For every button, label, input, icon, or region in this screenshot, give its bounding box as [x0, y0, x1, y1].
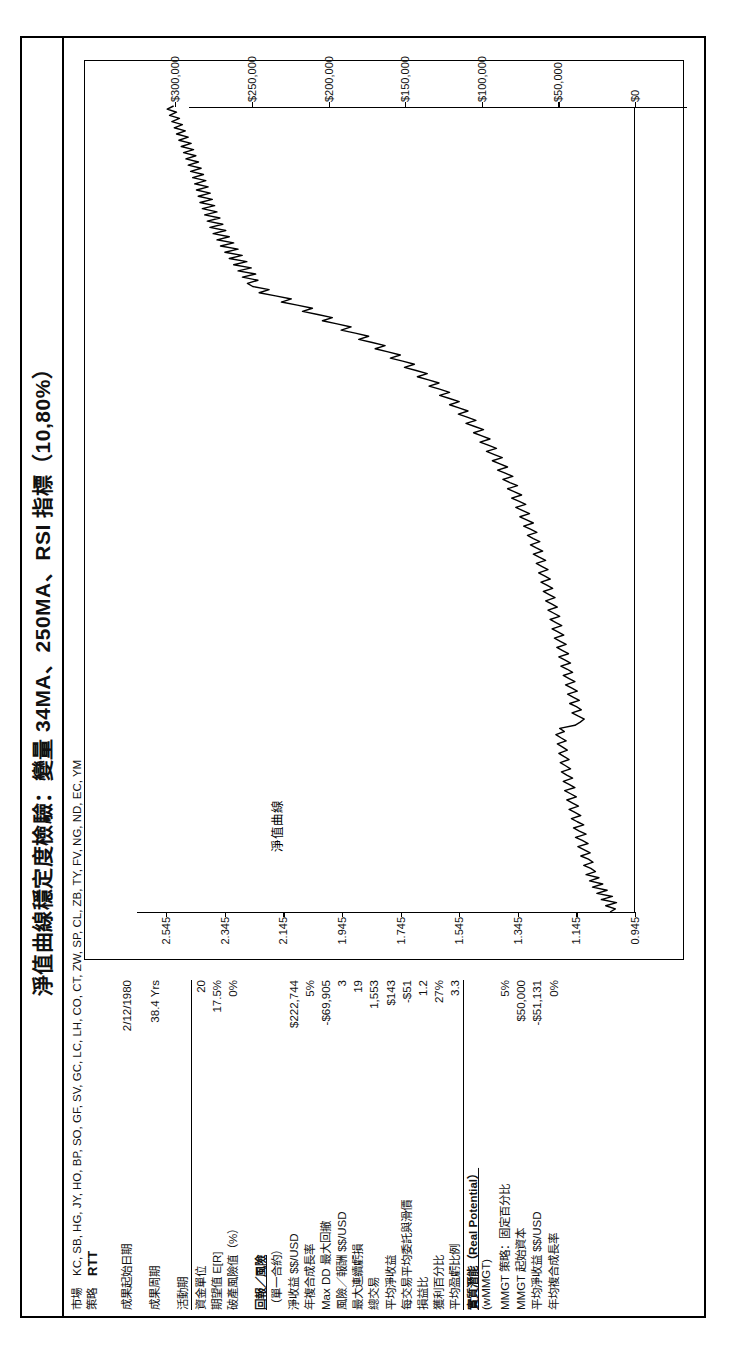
stats-row: (wMMGT): [480, 980, 496, 1310]
stats-row-label: MMGT 起始資本: [512, 1022, 528, 1310]
stats-row-value: 3.3: [449, 980, 461, 996]
stats-row-value: 2/12/1980: [121, 980, 133, 1031]
stats-row: 每交易平均委託與滑價-$51: [398, 980, 414, 1310]
stats-row-value: $143: [385, 980, 397, 1006]
stats-row-label: Max DD 最大回撤: [317, 1025, 333, 1310]
stats-row: 期望值 E[R]17.5%: [208, 980, 224, 1310]
stats-row-label: 年均複合成長率: [545, 997, 561, 1310]
stats-row: 活動期: [174, 980, 191, 1310]
stats-row-value: 5%: [304, 980, 316, 997]
y-axis-right-tick-mark: [482, 102, 483, 107]
stats-row-value: 1,553: [368, 980, 380, 1009]
y-axis-right-tick-label: $150,000: [399, 56, 411, 102]
y-axis-left-tick-mark: [342, 912, 343, 917]
y-axis-right-tick-mark: [405, 102, 406, 107]
stats-row: Max DD 最大回撤-$69,905: [317, 980, 333, 1310]
stats-row: 平均盈虧比例3.3: [446, 980, 463, 1310]
stats-row: 成果周期38.4 Yrs: [146, 980, 162, 1310]
y-axis-right-tick-mark: [252, 102, 253, 107]
market-label: 市場: [70, 1276, 85, 1310]
stats-spacer: [162, 980, 174, 1310]
y-axis-left-tick-label: 2.545: [160, 917, 172, 945]
stats-row: MMGT 起始資本$50,000: [512, 980, 528, 1310]
market-value: KC, SB, HG, JY, HO, BP, SO, GF, SV, GC, …: [70, 610, 85, 1276]
y-axis-right-tick-mark: [329, 102, 330, 107]
stats-row-value: $50,000: [515, 980, 527, 1022]
stats-row-label: 成果周期: [146, 1023, 162, 1310]
y-axis-left-tick-label: 2.145: [277, 917, 289, 945]
y-axis-right-tick-label: $0: [629, 90, 641, 102]
market-row: 市場 KC, SB, HG, JY, HO, BP, SO, GF, SV, G…: [70, 610, 85, 1310]
stats-row: 最大連續虧損19: [349, 980, 365, 1310]
rotated-page-stage: 淨值曲線穩定度檢驗：變量 34MA、250MA、RSI 指標（10,80%） 市…: [0, 0, 729, 1352]
stats-row: 損益比1.2: [414, 980, 430, 1310]
stats-spacer: [240, 980, 252, 1310]
y-axis-left-tick-mark: [576, 912, 577, 917]
strategy-label: 策略: [85, 1276, 100, 1310]
y-axis-right-tick-mark: [635, 102, 636, 107]
stats-row-value: -$51: [401, 980, 413, 1003]
stats-row: MMGT 策略：固定百分比5%: [496, 980, 512, 1310]
y-axis-right-tick-label: $200,000: [323, 56, 335, 102]
stats-row: 總交易1,553: [365, 980, 381, 1310]
stats-row-label: 淨收益 $$/USD: [285, 1028, 301, 1310]
stats-row-label: 最大連續虧損: [349, 993, 365, 1310]
stats-row-value: 3: [336, 980, 348, 986]
stats-row-value: 38.4 Yrs: [149, 980, 161, 1023]
stats-row: 成果起始日期2/12/1980: [118, 980, 134, 1310]
stats-row-label: (wMMGT): [480, 980, 492, 1310]
stats-row: 年複合成長率5%: [301, 980, 317, 1310]
report-page: 淨值曲線穩定度檢驗：變量 34MA、250MA、RSI 指標（10,80%） 市…: [0, 0, 729, 1352]
stats-row: （單一合約）: [268, 980, 284, 1310]
stats-row-label: MMGT 策略：固定百分比: [496, 997, 512, 1310]
stats-row-label: 每交易平均委託與滑價: [398, 1003, 414, 1310]
title-band: 淨值曲線穩定度檢驗：變量 34MA、250MA、RSI 指標（10,80%）: [20, 36, 64, 1318]
stats-row-value: $222,744: [288, 980, 300, 1028]
stats-row: 實質潛能（Real Potential）: [464, 980, 480, 1310]
stats-row-label: 活動期: [174, 980, 190, 1310]
stats-row: 獲利百分比27%: [430, 980, 446, 1310]
stats-row-label: 平均淨收益: [382, 1006, 398, 1310]
y-axis-right-tick-label: $300,000: [169, 56, 181, 102]
y-axis-left-tick-mark: [283, 912, 284, 917]
y-axis-left-tick-label: 2.345: [219, 917, 231, 945]
statistics-table: 成果起始日期2/12/1980成果周期38.4 Yrs活動期資金單位20期望值 …: [118, 980, 561, 1310]
stats-row-label: （單一合約）: [268, 980, 284, 1310]
stats-row-label: 成果起始日期: [118, 1031, 134, 1310]
stats-spacer: [134, 980, 146, 1310]
stats-row-value: 5%: [499, 980, 511, 997]
y-axis-right-tick-mark: [175, 102, 176, 107]
stats-row-value: -$69,905: [320, 980, 332, 1025]
stats-row-label: 風險／報酬 $$/USD: [333, 986, 349, 1310]
stats-row-label: 破產風險值（%）: [224, 997, 240, 1310]
y-axis-left-tick-label: 0.945: [629, 917, 641, 945]
plot-area: 淨值曲線 0.9451.1451.3451.5451.7451.9452.145…: [137, 107, 635, 913]
y-axis-left-tick-mark: [166, 912, 167, 917]
stats-row: 淨收益 $$/USD$222,744: [285, 980, 301, 1310]
stats-row-value: 20: [195, 980, 207, 993]
stats-row: 年均複合成長率0%: [545, 980, 561, 1310]
stats-row-label: 實質潛能（Real Potential）: [464, 980, 480, 1310]
stats-row-label: 年複合成長率: [301, 997, 317, 1310]
stats-row-value: 1.2: [417, 980, 429, 996]
page-title: 淨值曲線穩定度檢驗：變量 34MA、250MA、RSI 指標（10,80%）: [26, 358, 56, 997]
y-axis-right-tick-mark: [558, 102, 559, 107]
stats-row-value: 19: [352, 980, 364, 993]
stats-row-value: -$51,131: [531, 980, 543, 1025]
stats-row-label: 損益比: [414, 996, 430, 1310]
stats-row-label: 獲利百分比: [430, 1003, 446, 1310]
y-axis-left-tick-mark: [225, 912, 226, 917]
stats-row: 回報／風險: [252, 980, 268, 1310]
y-axis-left-tick-label: 1.945: [336, 917, 348, 945]
equity-curve-chart: 淨值曲線 0.9451.1451.3451.5451.7451.9452.145…: [84, 60, 684, 960]
y-axis-left-tick-mark: [518, 912, 519, 917]
y-axis-left-tick-mark: [635, 912, 636, 917]
y-axis-right-tick-label: $100,000: [476, 56, 488, 102]
stats-row-label: 回報／風險: [252, 980, 268, 1310]
stats-row: 資金單位20: [192, 980, 208, 1310]
y-axis-left-tick-label: 1.345: [512, 917, 524, 945]
stats-row-label: 期望值 E[R]: [208, 1013, 224, 1310]
stats-row-value: 17.5%: [211, 980, 223, 1013]
y-axis-right-tick-label: $50,000: [552, 62, 564, 102]
y-axis-left-tick-label: 1.545: [453, 917, 465, 945]
